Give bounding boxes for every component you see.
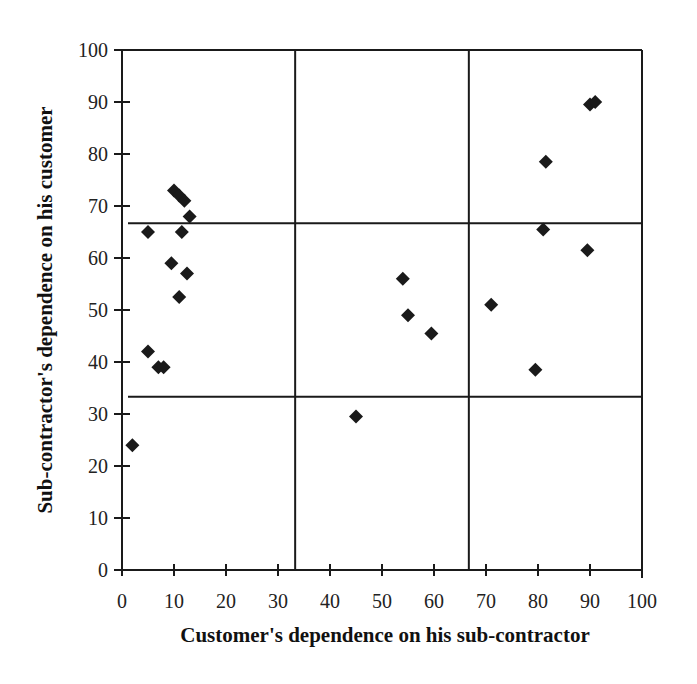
y-tick-label: 30 bbox=[88, 403, 108, 425]
diamond-marker bbox=[141, 345, 155, 359]
y-tick-label: 10 bbox=[88, 507, 108, 529]
diamond-marker bbox=[536, 222, 550, 236]
diamond-marker bbox=[349, 410, 363, 424]
diamond-marker bbox=[125, 438, 139, 452]
diamond-marker bbox=[539, 155, 553, 169]
diamond-marker bbox=[424, 326, 438, 340]
x-tick-label: 40 bbox=[320, 590, 340, 612]
diamond-marker bbox=[528, 363, 542, 377]
diamond-marker bbox=[401, 308, 415, 322]
quadrant-dividers bbox=[128, 50, 642, 570]
data-points bbox=[125, 95, 602, 452]
x-tick-label: 30 bbox=[268, 590, 288, 612]
y-tick-label: 70 bbox=[88, 195, 108, 217]
y-tick-label: 40 bbox=[88, 351, 108, 373]
y-tick-label: 20 bbox=[88, 455, 108, 477]
x-axis-title: Customer's dependence on his sub-contrac… bbox=[180, 623, 590, 647]
x-tick-label: 90 bbox=[580, 590, 600, 612]
diamond-marker bbox=[141, 225, 155, 239]
x-tick-label: 10 bbox=[164, 590, 184, 612]
y-tick-label: 80 bbox=[88, 143, 108, 165]
x-tick-label: 70 bbox=[476, 590, 496, 612]
y-tick-label: 60 bbox=[88, 247, 108, 269]
x-tick-label: 100 bbox=[627, 590, 657, 612]
y-tick-label: 50 bbox=[88, 299, 108, 321]
diamond-marker bbox=[183, 209, 197, 223]
y-axis-title: Sub-contractor's dependence on his custo… bbox=[33, 106, 57, 513]
diamond-marker bbox=[580, 243, 594, 257]
scatter-chart: 0102030405060708090100 01020304050607080… bbox=[0, 0, 697, 684]
plot-frame bbox=[122, 50, 642, 578]
x-tick-label: 60 bbox=[424, 590, 444, 612]
x-axis: 0102030405060708090100 bbox=[117, 564, 657, 612]
diamond-marker bbox=[484, 298, 498, 312]
diamond-marker bbox=[180, 267, 194, 281]
x-tick-label: 0 bbox=[117, 590, 127, 612]
diamond-marker bbox=[396, 272, 410, 286]
diamond-marker bbox=[172, 290, 186, 304]
diamond-marker bbox=[175, 225, 189, 239]
x-tick-label: 50 bbox=[372, 590, 392, 612]
y-tick-label: 100 bbox=[78, 39, 108, 61]
y-tick-label: 0 bbox=[98, 559, 108, 581]
x-tick-label: 80 bbox=[528, 590, 548, 612]
x-tick-label: 20 bbox=[216, 590, 236, 612]
diamond-marker bbox=[164, 256, 178, 270]
y-tick-label: 90 bbox=[88, 91, 108, 113]
